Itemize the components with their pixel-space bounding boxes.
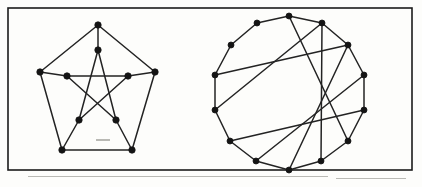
graph-edge: [289, 161, 321, 170]
graph-edge: [321, 141, 348, 161]
graph-vertex: [254, 20, 260, 26]
graph-vertex: [253, 158, 259, 164]
scan-artifact: [28, 176, 328, 177]
graph-edge: [348, 110, 364, 141]
graph-vertex: [37, 69, 43, 75]
graph-vertex: [212, 72, 218, 78]
graph-edge: [128, 72, 155, 76]
graph-vertex: [64, 73, 70, 79]
graph-vertex: [76, 117, 82, 123]
circulant-graph-14-edges: [215, 16, 364, 170]
scan-artifact-layer: [28, 139, 406, 179]
graph-vertex: [59, 147, 65, 153]
graph-vertex: [286, 167, 292, 173]
graph-edge: [256, 161, 289, 170]
graph-vertex: [228, 42, 234, 48]
graph-vertex: [345, 42, 351, 48]
graph-vertex: [361, 72, 367, 78]
graph-edge: [40, 72, 62, 150]
graph-edge: [289, 45, 348, 170]
scan-artifact: [336, 178, 406, 179]
graph-edge: [132, 72, 155, 150]
scan-artifact: [96, 139, 110, 141]
graph-edge: [257, 16, 289, 23]
figure-border: [8, 8, 412, 170]
graph-edge: [62, 120, 79, 150]
graph-edge: [230, 141, 256, 161]
graph-edge: [116, 120, 132, 150]
graph-edge: [215, 45, 231, 75]
graph-vertex: [152, 69, 158, 75]
graph-vertex: [345, 138, 351, 144]
graph-edge: [40, 72, 67, 76]
graph-edge: [79, 50, 98, 120]
graph-vertex: [95, 47, 101, 53]
graph-edge: [40, 25, 98, 72]
graph-edge: [230, 110, 364, 141]
graph-edge: [98, 25, 155, 72]
petersen-graph-panel: [37, 22, 158, 153]
graph-vertex: [319, 20, 325, 26]
figure-border-group: [8, 8, 412, 170]
graph-edge: [321, 23, 322, 161]
graph-vertex: [361, 107, 367, 113]
graph-edge: [215, 110, 230, 141]
graph-edge: [79, 76, 128, 120]
graph-edge: [215, 23, 322, 110]
petersen-graph-edges: [40, 25, 155, 150]
graph-vertex: [129, 147, 135, 153]
graph-vertex: [125, 73, 131, 79]
graph-edge: [322, 23, 348, 45]
graph-edge: [231, 23, 257, 45]
graph-edge: [348, 45, 364, 75]
graph-edge: [67, 76, 116, 120]
graph-vertex: [318, 158, 324, 164]
graph-vertex: [113, 117, 119, 123]
graph-figure-svg: [0, 0, 422, 187]
graph-vertex: [227, 138, 233, 144]
graph-vertex: [286, 13, 292, 19]
graph-vertex: [95, 22, 101, 28]
graph-vertex: [212, 107, 218, 113]
graph-edge: [98, 50, 116, 120]
circulant-graph-14-panel: [212, 13, 367, 173]
graph-edge: [256, 75, 364, 161]
figure-container: [0, 0, 422, 187]
graph-edge: [289, 16, 348, 141]
graph-edge: [289, 16, 322, 23]
graph-edge: [215, 45, 348, 75]
